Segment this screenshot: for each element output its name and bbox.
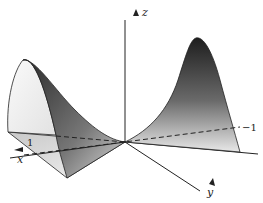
- z-axis-label: z: [141, 6, 148, 19]
- y-axis: [125, 142, 200, 191]
- x-axis-label: x: [17, 153, 24, 166]
- y-arrow-icon: [209, 178, 215, 186]
- surface-right-lobe: [125, 38, 240, 152]
- y-axis-label: y: [206, 186, 214, 199]
- z-arrow-icon: [133, 9, 139, 16]
- x-tick-label: 1: [27, 137, 33, 148]
- y-tick-label: −1: [242, 122, 257, 133]
- surface-diagram: z x 1 y −1: [0, 0, 263, 203]
- x-arrow-icon: [14, 147, 23, 152]
